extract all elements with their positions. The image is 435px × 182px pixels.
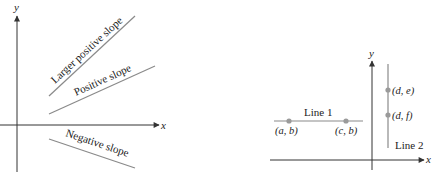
right-diagram: y x Line 1 (a, b) (c, b) (d, e) (d, f) L… (270, 47, 431, 170)
line-1-label: Line 1 (304, 106, 332, 118)
point-c-b (343, 118, 348, 123)
right-x-axis-label: x (425, 153, 431, 165)
point-d-f-label: (d, f) (392, 110, 413, 122)
point-a-b-label: (a, b) (275, 125, 298, 137)
line-2-label: Line 2 (395, 139, 423, 151)
point-d-f (385, 112, 390, 117)
negative-slope-label: Negative slope (64, 127, 130, 159)
slope-diagrams: y x Larger positive slope Positive slope… (0, 0, 435, 182)
point-a-b (286, 118, 291, 123)
left-diagram: y x Larger positive slope Positive slope… (0, 1, 166, 172)
left-y-axis-label: y (13, 1, 19, 13)
point-d-e-label: (d, e) (392, 85, 415, 97)
left-x-axis-label: x (160, 119, 166, 131)
point-c-b-label: (c, b) (335, 125, 358, 137)
point-d-e (385, 87, 390, 92)
right-y-axis-label: y (368, 47, 374, 59)
